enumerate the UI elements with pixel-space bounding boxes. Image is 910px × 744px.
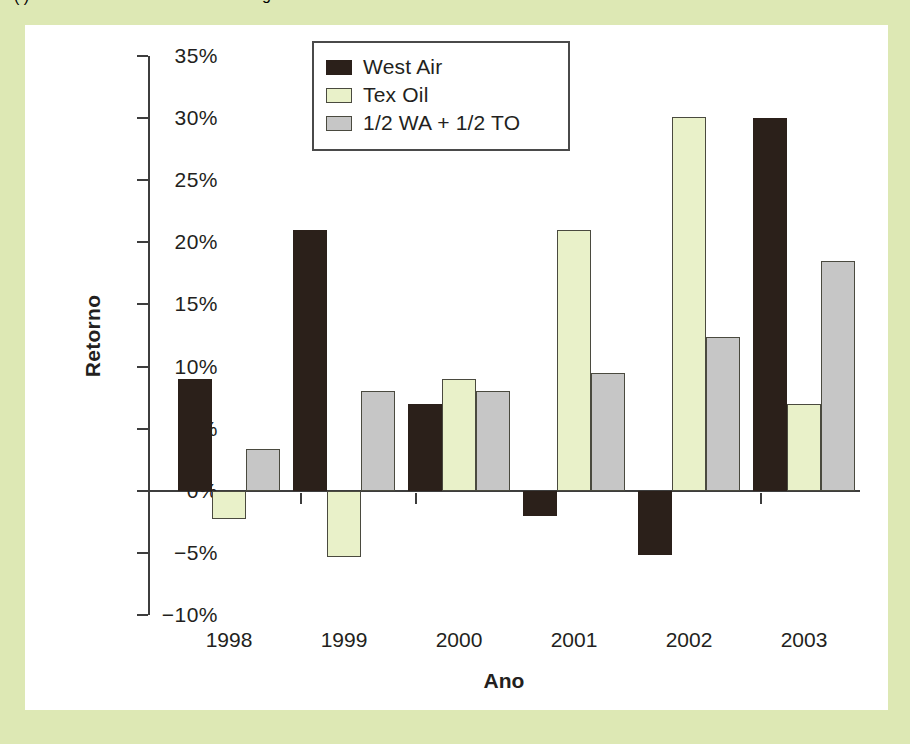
bar-blend-2002 (706, 337, 740, 491)
page-top-fragment-right: g (262, 0, 271, 4)
y-axis-tick-label: 25% (174, 168, 218, 192)
bar-west-air-1999 (293, 230, 327, 491)
x-axis-tick-label: 1998 (206, 628, 253, 652)
bar-blend-1999 (361, 391, 395, 490)
chart-panel: 35%30%25%20%15%10%5%0%−5%−10% Retorno 19… (25, 25, 888, 710)
y-axis-tick-label: −5% (174, 541, 218, 565)
y-axis-tick-label: 20% (174, 230, 218, 254)
bar-blend-2003 (821, 261, 855, 491)
bar-west-air-2002 (638, 491, 672, 556)
x-axis-tick (415, 493, 417, 504)
y-axis-title: Retorno (81, 294, 105, 377)
bar-tex-oil-2002 (672, 117, 706, 491)
bar-west-air-2000 (408, 404, 442, 491)
x-axis-tick-label: 2001 (551, 628, 598, 652)
bar-west-air-1998 (178, 379, 212, 491)
bar-blend-2000 (476, 391, 510, 490)
legend-swatch-tex-oil (326, 88, 352, 103)
chart-legend: West Air Tex Oil 1/2 WA + 1/2 TO (312, 41, 570, 151)
bar-west-air-2003 (753, 118, 787, 491)
bar-tex-oil-1999 (327, 491, 361, 557)
chart-page: { "page": { "background_color": "#dde8b4… (0, 0, 910, 744)
legend-item: West Air (326, 55, 556, 79)
bar-tex-oil-1998 (212, 491, 246, 520)
legend-label-blend: 1/2 WA + 1/2 TO (363, 111, 520, 135)
page-top-fragment-left: ( ) (14, 0, 29, 6)
x-axis-tick-label: 2000 (436, 628, 483, 652)
bar-west-air-2001 (523, 491, 557, 516)
y-axis-tick-label: −10% (162, 603, 218, 627)
bar-tex-oil-2001 (557, 230, 591, 491)
legend-swatch-west-air (326, 60, 352, 75)
x-axis-title: Ano (148, 669, 860, 693)
legend-label-west-air: West Air (363, 55, 442, 79)
x-axis-tick-label: 2002 (666, 628, 713, 652)
y-axis-tick-label: 10% (174, 355, 218, 379)
bar-tex-oil-2003 (787, 404, 821, 491)
y-axis-tick-label: 30% (174, 106, 218, 130)
bar-tex-oil-2000 (442, 379, 476, 491)
y-axis-tick-label: 15% (174, 292, 218, 316)
y-axis-tick-labels: 35%30%25%20%15%10%5%0%−5%−10% (126, 56, 218, 615)
bar-blend-2001 (591, 373, 625, 491)
x-axis-tick (300, 493, 302, 504)
legend-swatch-blend (326, 116, 352, 131)
y-axis-tick-label: 35% (174, 44, 218, 68)
x-axis-tick-label: 2003 (781, 628, 828, 652)
legend-label-tex-oil: Tex Oil (363, 83, 429, 107)
x-axis-tick-label: 1999 (321, 628, 368, 652)
legend-item: Tex Oil (326, 83, 556, 107)
x-axis-tick (760, 493, 762, 504)
legend-item: 1/2 WA + 1/2 TO (326, 111, 556, 135)
bar-blend-1998 (246, 449, 280, 491)
